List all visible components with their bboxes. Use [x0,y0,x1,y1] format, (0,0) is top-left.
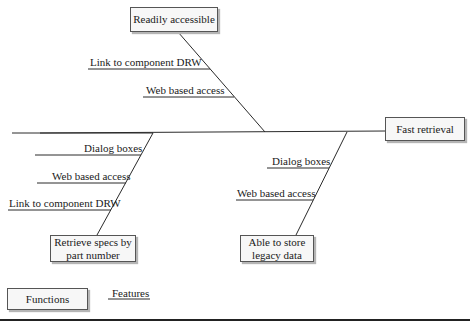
cause-label: Dialog boxes [84,142,142,154]
category-label-line1: Retrieve specs by [54,236,132,249]
head-box-fast-retrieval: Fast retrieval [385,117,465,141]
category-box-readily-accessible: Readily accessible [130,7,218,32]
category-box-retrieve-specs: Retrieve specs by part number [50,235,136,262]
category-label-line1: Able to store [249,236,306,249]
category-label: Readily accessible [133,13,215,26]
fishbone-lines [0,0,470,323]
head-label: Fast retrieval [396,123,454,136]
top-branch-line [178,32,265,132]
cause-label: Link to component DRW [90,56,202,68]
category-label-line2: legacy data [252,249,302,262]
cause-label: Dialog boxes [272,155,330,167]
legend-functions-label: Functions [26,293,69,306]
cause-label: Link to component DRW [9,197,121,209]
cause-label: Web based access [237,187,316,199]
cause-label: Web based access [146,84,225,96]
bottom-right-branch-line [296,132,347,235]
category-box-legacy-data: Able to store legacy data [240,235,314,262]
category-label-line2: part number [66,249,119,262]
legend-functions-box: Functions [7,288,88,310]
legend-features-label: Features [112,287,149,299]
cause-label: Web based access [52,170,131,182]
